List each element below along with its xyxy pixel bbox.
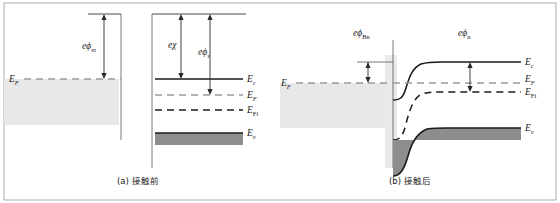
e-phi-Bn-arrowhead-up: [365, 62, 370, 68]
panel-a-Ev-label: Ev: [246, 128, 256, 140]
panel-a-metal-EF-label: EF: [8, 74, 20, 86]
e-phi-m-label: eϕm: [82, 41, 96, 53]
e-chi-arrowhead-up: [178, 14, 183, 20]
panel-b-EFi-label: EFi: [524, 87, 536, 99]
e-phi-n-arrowhead-up: [467, 62, 472, 68]
panel-b-Ec-label: Ec: [524, 57, 534, 69]
e-chi-arrowhead-down: [178, 73, 183, 79]
e-phi-Bn-arrowhead-down: [365, 77, 370, 83]
e-phi-n-arrowhead-down: [467, 86, 472, 92]
panel-b-metal-fill: [280, 83, 385, 128]
panel-b-group: eϕBn eϕn EF Ec EF EFi E: [280, 28, 536, 186]
panel-a-caption: (a) 接触前: [117, 176, 159, 186]
e-phi-s-arrowhead-up: [207, 14, 212, 20]
e-phi-n-label: eϕn: [458, 28, 471, 40]
panel-b-metal-EF-label: EF: [280, 78, 292, 90]
panel-a-EF-label: EF: [246, 90, 258, 102]
e-phi-m-arrowhead-up: [101, 14, 106, 20]
semiconductor-valence-band-fill: [155, 133, 243, 145]
band-diagram-svg: eϕm eχ eϕs: [0, 0, 560, 203]
panel-a-Ec-label: Ec: [246, 74, 256, 86]
panel-b-EF-label: EF: [524, 74, 536, 86]
e-phi-m-arrowhead-down: [101, 73, 106, 79]
metal-electron-sea-fill: [4, 79, 119, 125]
figure-root: eϕm eχ eϕs: [0, 0, 560, 203]
e-phi-Bn-label: eϕBn: [353, 28, 370, 40]
e-phi-s-arrowhead-down: [207, 89, 212, 95]
panel-b-Ec-curve: [393, 62, 521, 100]
panel-b-Ev-label: Ev: [524, 123, 534, 135]
panel-a-group: eϕm eχ eϕs: [4, 14, 258, 186]
panel-b-valence-band-fill: [393, 128, 521, 176]
e-chi-label: eχ: [168, 40, 177, 50]
panel-a-EFi-label: EFi: [246, 105, 258, 117]
panel-b-caption: (b) 接触后: [389, 176, 431, 186]
e-phi-s-label: eϕs: [198, 47, 210, 59]
